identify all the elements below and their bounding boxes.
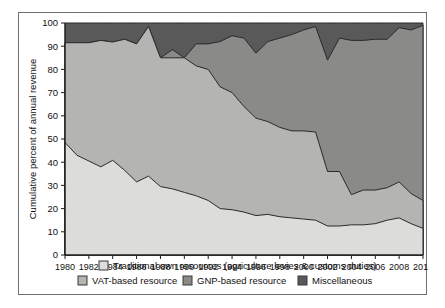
y-tick-label-40: 40 <box>47 157 58 168</box>
y-tick-label-80: 80 <box>47 64 58 75</box>
y-axis-title-group: Cumulative percent of annual revenue <box>27 59 38 220</box>
legend-label-3: Miscellaneous <box>312 275 372 286</box>
legend-svg: Traditional own resources (agriculture l… <box>18 258 427 295</box>
plot-area-wrapper: 0102030405060708090100 19801982198419861… <box>19 13 428 296</box>
stacked-area-chart: 0102030405060708090100 19801982198419861… <box>19 13 428 296</box>
legend-label-2: GNP-based resource <box>197 275 286 286</box>
chart-frame: 0102030405060708090100 19801982198419861… <box>18 12 427 295</box>
y-axis-title: Cumulative percent of annual revenue <box>27 59 38 220</box>
y-tick-label-20: 20 <box>47 203 58 214</box>
y-tick-label-90: 90 <box>47 41 58 52</box>
chart-legend: Traditional own resources (agriculture l… <box>18 258 427 295</box>
legend-label-0: Traditional own resources (agriculture l… <box>113 260 377 271</box>
y-tick-labels-group: 0102030405060708090100 <box>42 17 65 260</box>
top-margin-strip <box>0 0 445 11</box>
y-tick-label-10: 10 <box>47 226 58 237</box>
legend-swatch-1 <box>78 276 87 285</box>
y-tick-label-70: 70 <box>47 87 58 98</box>
legend-swatch-2 <box>183 276 192 285</box>
y-tick-label-50: 50 <box>47 133 58 144</box>
y-tick-label-30: 30 <box>47 180 58 191</box>
figure-container: 0102030405060708090100 19801982198419861… <box>0 0 445 308</box>
y-tick-label-100: 100 <box>42 17 58 28</box>
legend-swatch-3 <box>298 276 307 285</box>
legend-swatch-0 <box>99 261 108 270</box>
legend-label-1: VAT-based resource <box>92 275 177 286</box>
y-tick-label-60: 60 <box>47 110 58 121</box>
legend-entries-group: Traditional own resources (agriculture l… <box>78 260 377 286</box>
area-bands-group <box>65 23 423 255</box>
